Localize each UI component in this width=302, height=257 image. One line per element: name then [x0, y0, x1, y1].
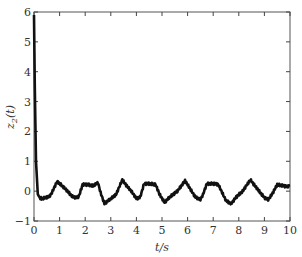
y-axis-label-tail: (t): [4, 105, 17, 118]
x-tick-label: 3: [107, 224, 114, 237]
x-tick-label: 6: [184, 224, 191, 237]
y-tick-label: 6: [24, 6, 31, 19]
y-tick-label: 5: [24, 36, 31, 49]
x-tick-label: 5: [159, 224, 166, 237]
x-tick-label: 7: [210, 224, 217, 237]
chart: −10123456 012345678910 t/s z2(t): [0, 0, 302, 257]
x-tick-label: 0: [31, 224, 38, 237]
y-tick-label: 1: [24, 155, 31, 168]
x-tick-label: 4: [133, 224, 140, 237]
x-tick-label: 10: [283, 224, 297, 237]
x-tick-label: 8: [235, 224, 242, 237]
plot-border: [34, 12, 290, 221]
x-axis-label: t/s: [155, 241, 169, 254]
y-tick-label: −1: [15, 215, 31, 228]
x-tick-label: 9: [261, 224, 268, 237]
y-axis-label: z2(t): [4, 105, 19, 130]
y-tick-label: 3: [24, 96, 31, 109]
series-layer: [34, 15, 290, 204]
y-axis-ticks: −10123456: [15, 6, 290, 228]
series-line: [34, 15, 290, 204]
x-tick-label: 1: [56, 224, 63, 237]
plot-frame: [34, 12, 290, 221]
x-tick-label: 2: [82, 224, 89, 237]
y-tick-label: 2: [24, 125, 31, 138]
svg-text:z2(t): z2(t): [4, 105, 19, 130]
y-tick-label: 0: [24, 185, 31, 198]
y-tick-label: 4: [24, 66, 31, 79]
